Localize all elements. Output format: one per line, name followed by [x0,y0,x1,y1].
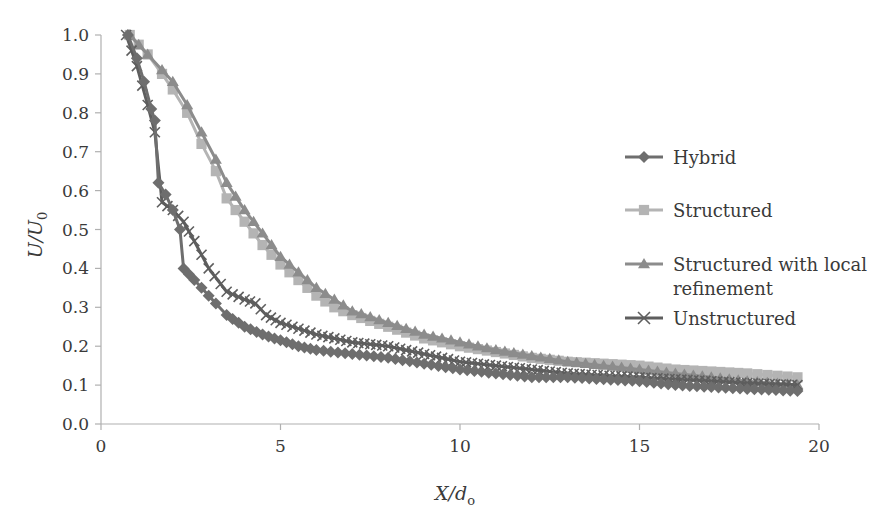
triangle-marker-icon [210,153,222,163]
x-marker-icon [204,263,214,273]
triangle-marker-icon [221,177,233,187]
square-marker-icon [320,296,330,306]
y-tick-label: 0.5 [62,220,89,240]
x-tick-label: 10 [449,436,471,456]
legend-label: Structured [673,200,772,221]
square-marker-icon [222,193,232,203]
x-axis-title-sub: o [467,493,475,508]
diamond-marker-icon [638,151,650,163]
x-tick-label: 5 [275,436,286,456]
square-marker-icon [639,205,649,215]
y-tick-label: 0.4 [62,258,89,278]
x-axis-title: X/do [433,482,475,508]
legend-label: Hybrid [673,147,736,168]
y-tick-label: 0.8 [62,103,89,123]
legend-item: Hybrid [625,147,736,168]
legend-item: Structured [625,200,772,221]
x-marker-icon [216,279,226,289]
legend-label: Structured with local [673,254,867,275]
x-marker-icon [184,226,194,236]
y-tick-label: 0.7 [62,142,89,162]
y-tick-label: 0.0 [62,414,89,434]
y-tick-label: 1.0 [62,25,89,45]
legend-item: Structured with localrefinement [625,254,867,299]
chart-svg: 0.00.10.20.30.40.50.60.70.80.91.00510152… [0,0,882,513]
x-tick-label: 20 [808,436,830,456]
y-tick-label: 0.6 [62,181,89,201]
x-axis-title-main: X/d [433,482,467,504]
y-tick-label: 0.2 [62,336,89,356]
x-tick-label: 15 [629,436,651,456]
square-marker-icon [329,302,339,312]
legend-label: refinement [673,278,774,299]
y-tick-label: 0.9 [62,64,89,84]
legend-item: Unstructured [625,308,796,329]
y-axis-title: U/U0 [24,212,50,259]
x-marker-icon [189,236,199,246]
y-axis-title-main: U/U [24,219,46,258]
y-tick-label: 0.3 [62,297,89,317]
legend-label: Unstructured [673,308,796,329]
x-tick-label: 0 [96,436,107,456]
x-marker-icon [210,271,220,281]
x-marker-icon [197,250,207,260]
legend: HybridStructuredStructured with localref… [625,147,867,329]
square-marker-icon [311,291,321,301]
chart: 0.00.10.20.30.40.50.60.70.80.91.00510152… [0,0,882,513]
y-axis-title-sub: 0 [35,212,50,220]
y-tick-label: 0.1 [62,375,89,395]
